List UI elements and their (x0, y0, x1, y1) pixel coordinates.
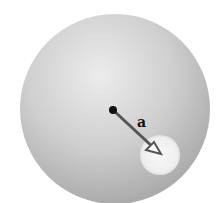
center-dot (109, 106, 117, 114)
sphere-cavity-diagram: a (0, 0, 223, 203)
vector-label-a: a (137, 114, 146, 130)
